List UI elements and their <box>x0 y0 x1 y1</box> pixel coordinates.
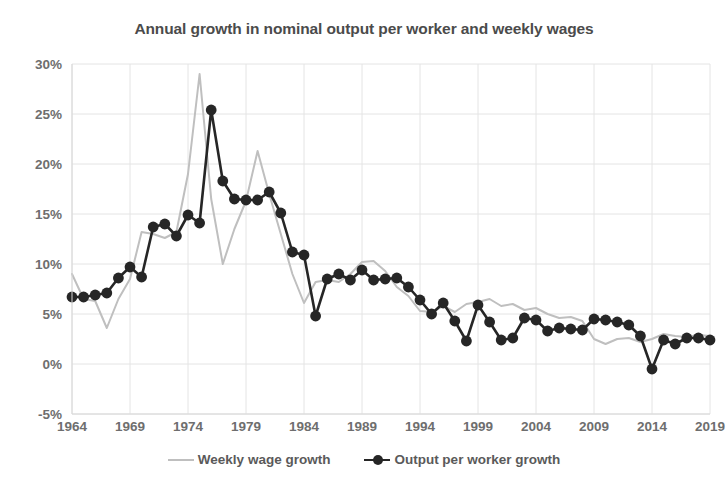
chart-legend: Weekly wage growth Output per worker gro… <box>0 452 728 467</box>
x-axis-tick-1994: 1994 <box>390 419 450 434</box>
x-axis-tick-1964: 1964 <box>42 419 102 434</box>
legend-item-weekly-wage-growth: Weekly wage growth <box>168 452 331 467</box>
legend-label: Weekly wage growth <box>198 452 331 467</box>
legend-item-output-per-worker-growth: Output per worker growth <box>364 452 560 467</box>
x-axis-tick-1984: 1984 <box>274 419 334 434</box>
x-axis-tick-1979: 1979 <box>216 419 276 434</box>
legend-label: Output per worker growth <box>394 452 560 467</box>
legend-line-marker-swatch-icon <box>364 453 390 467</box>
y-axis-tick-20pct: 20% <box>16 157 62 172</box>
chart-container: Annual growth in nominal output per work… <box>0 0 728 492</box>
y-axis-tick-10pct: 10% <box>16 257 62 272</box>
y-axis-tick-15pct: 15% <box>16 207 62 222</box>
x-axis-tick-1989: 1989 <box>332 419 392 434</box>
y-axis-tick-5pct: 5% <box>16 307 62 322</box>
x-axis-tick-2014: 2014 <box>622 419 682 434</box>
x-axis-tick-1969: 1969 <box>100 419 160 434</box>
x-axis-tick-2009: 2009 <box>564 419 624 434</box>
y-axis-tick-30pct: 30% <box>16 57 62 72</box>
y-axis-tick-0pct: 0% <box>16 357 62 372</box>
y-axis-tick-25pct: 25% <box>16 107 62 122</box>
x-axis-tick-2019: 2019 <box>680 419 728 434</box>
x-axis-tick-1974: 1974 <box>158 419 218 434</box>
legend-line-swatch-icon <box>168 453 194 467</box>
x-axis-tick-2004: 2004 <box>506 419 566 434</box>
x-axis-tick-1999: 1999 <box>448 419 508 434</box>
